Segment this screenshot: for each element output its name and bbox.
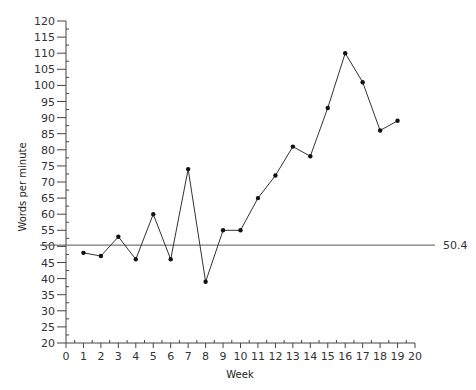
x-tick-label: 4 xyxy=(132,350,139,363)
y-tick-label: 120 xyxy=(34,15,55,28)
y-tick-label: 70 xyxy=(41,176,55,189)
reference-line-label: 50.4 xyxy=(443,239,468,252)
y-tick-label: 55 xyxy=(41,224,55,237)
x-tick-label: 0 xyxy=(63,350,70,363)
y-axis: 2025303540455055606570758085909510010511… xyxy=(34,15,69,350)
data-point-marker xyxy=(134,257,138,261)
x-tick-label: 16 xyxy=(338,350,352,363)
data-point-marker xyxy=(273,173,277,177)
x-tick-label: 20 xyxy=(408,350,422,363)
y-tick-label: 95 xyxy=(41,96,55,109)
x-tick-label: 6 xyxy=(167,350,174,363)
y-tick-label: 25 xyxy=(41,321,55,334)
y-tick-label: 105 xyxy=(34,63,55,76)
y-tick-label: 20 xyxy=(41,337,55,350)
x-axis-title: Week xyxy=(226,369,254,380)
data-point-marker xyxy=(256,196,260,200)
x-tick-label: 7 xyxy=(185,350,192,363)
y-tick-label: 45 xyxy=(41,257,55,270)
y-tick-label: 75 xyxy=(41,160,55,173)
data-point-marker xyxy=(169,257,173,261)
data-series xyxy=(81,51,399,284)
x-tick-label: 18 xyxy=(373,350,387,363)
data-point-marker xyxy=(151,212,155,216)
x-axis: 01234567891011121314151617181920 xyxy=(63,340,423,363)
x-tick-label: 5 xyxy=(150,350,157,363)
y-tick-label: 115 xyxy=(34,31,55,44)
x-tick-label: 2 xyxy=(97,350,104,363)
line-chart: 2025303540455055606570758085909510010511… xyxy=(0,0,476,390)
x-tick-label: 10 xyxy=(234,350,248,363)
y-tick-label: 65 xyxy=(41,192,55,205)
series-line xyxy=(83,53,397,282)
data-point-marker xyxy=(360,80,364,84)
data-point-marker xyxy=(99,254,103,258)
x-tick-label: 8 xyxy=(202,350,209,363)
data-point-marker xyxy=(378,128,382,132)
x-tick-label: 9 xyxy=(220,350,227,363)
data-point-marker xyxy=(291,144,295,148)
data-point-marker xyxy=(308,154,312,158)
y-tick-label: 30 xyxy=(41,305,55,318)
x-tick-label: 19 xyxy=(391,350,405,363)
y-axis-title: Words per minute xyxy=(17,142,28,231)
data-point-marker xyxy=(343,51,347,55)
x-tick-label: 17 xyxy=(356,350,370,363)
y-tick-label: 80 xyxy=(41,144,55,157)
y-tick-label: 110 xyxy=(34,47,55,60)
data-point-marker xyxy=(81,251,85,255)
data-point-marker xyxy=(186,167,190,171)
y-tick-label: 40 xyxy=(41,273,55,286)
y-tick-label: 50 xyxy=(41,240,55,253)
x-tick-label: 15 xyxy=(321,350,335,363)
data-point-marker xyxy=(203,280,207,284)
data-point-marker xyxy=(221,228,225,232)
y-tick-label: 90 xyxy=(41,112,55,125)
data-point-marker xyxy=(238,228,242,232)
data-point-marker xyxy=(395,119,399,123)
x-tick-label: 12 xyxy=(268,350,282,363)
y-tick-label: 100 xyxy=(34,79,55,92)
data-point-marker xyxy=(116,235,120,239)
x-tick-label: 3 xyxy=(115,350,122,363)
y-tick-label: 60 xyxy=(41,208,55,221)
data-point-marker xyxy=(326,106,330,110)
x-tick-label: 14 xyxy=(303,350,317,363)
x-tick-label: 11 xyxy=(251,350,265,363)
y-tick-label: 85 xyxy=(41,128,55,141)
x-tick-label: 1 xyxy=(80,350,87,363)
y-tick-label: 35 xyxy=(41,289,55,302)
x-tick-label: 13 xyxy=(286,350,300,363)
